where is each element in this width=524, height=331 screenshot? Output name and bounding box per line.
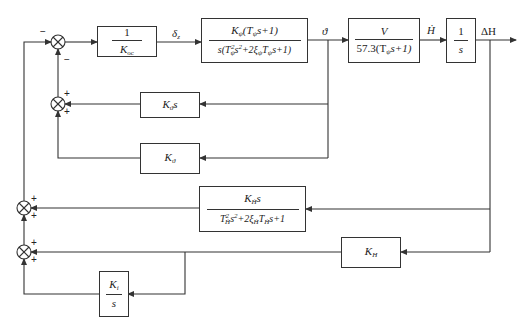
- signal-label-h-dot: Ḣ: [427, 24, 435, 36]
- block-numerator: 1: [124, 26, 130, 39]
- sign-s4-bottom: +: [31, 254, 37, 265]
- block-velocity-transfer-function: V 57.3(Tψs+1): [348, 18, 420, 63]
- block-k-h: KH: [341, 237, 401, 268]
- signal-label-delta-h: ΔH: [481, 25, 496, 37]
- block-attitude-transfer-function: Kψ(Tψs+1) s(Tψ2s2+2ξψTψs+1): [201, 18, 308, 63]
- sign-s2-top: +: [64, 88, 70, 99]
- block-k-i-integrator: Ki s: [99, 271, 129, 317]
- block-integrator: 1 s: [446, 18, 476, 63]
- block-denominator: 57.3(Tψs+1): [357, 42, 412, 56]
- sign-s4-top: +: [31, 237, 37, 248]
- block-numerator: Ki: [109, 278, 118, 292]
- block-label: Kϑ̇s: [162, 98, 177, 112]
- summing-junction-4: [17, 245, 31, 259]
- sign-s3-top: +: [31, 193, 37, 204]
- block-numerator: KḢs: [244, 192, 261, 206]
- block-denominator: s: [112, 297, 116, 310]
- block-k-theta: Kϑ: [140, 143, 200, 174]
- block-label: KH: [365, 245, 377, 259]
- block-numerator: 1: [458, 25, 464, 38]
- block-k-theta-dot-s: Kϑ̇s: [140, 92, 200, 118]
- block-numerator: Kψ(Tψs+1): [231, 24, 278, 38]
- block-denominator: s: [459, 43, 463, 56]
- sign-s1-bottom: −: [64, 54, 70, 65]
- block-label: Kϑ: [165, 151, 176, 165]
- signal-label-theta: ϑ: [322, 25, 327, 37]
- block-k-h-dot-transfer-function: KḢs T2Ḣs2+2ξḢTḢs+1: [199, 186, 306, 232]
- signal-label-delta-z: δz: [172, 27, 180, 41]
- sign-s3-bottom: +: [31, 210, 37, 221]
- summing-junction-3: [17, 201, 31, 215]
- sign-s1-left: −: [40, 26, 46, 37]
- block-inverse-k-oc: 1 Koc: [97, 26, 157, 57]
- block-denominator: T2Ḣs2+2ξḢTḢs+1: [220, 212, 285, 226]
- summing-junction-2: [51, 97, 65, 111]
- sign-s2-bottom: +: [64, 106, 70, 117]
- block-numerator: V: [381, 25, 388, 38]
- block-denominator: s(Tψ2s2+2ξψTψs+1): [218, 43, 291, 57]
- block-denominator: Koc: [120, 43, 134, 57]
- summing-junction-1: [51, 35, 65, 49]
